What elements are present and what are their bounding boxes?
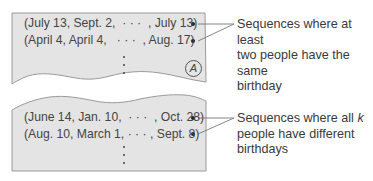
label-line: birthday — [237, 79, 373, 95]
variable-k: k — [357, 111, 363, 125]
circled-a-marker: A — [185, 60, 202, 77]
label-line: Sequences where all k — [237, 111, 364, 127]
label-different-birthdays: Sequences where all k people have differ… — [237, 111, 364, 158]
vertical-ellipsis — [123, 146, 127, 170]
sequence-row: (July 13, Sept. 2, · · · , July 13) — [24, 16, 197, 30]
label-line: people have different — [237, 127, 364, 143]
sequence-row: (Aug. 10, March 1, · · · , Sept. 8) — [24, 127, 199, 141]
label-line: birthdays — [237, 142, 364, 158]
label-line: Sequences where at least — [237, 17, 373, 48]
label-line: two people have the same — [237, 48, 373, 79]
sequence-row: (April 4, April 4, · · · , Aug. 17) — [24, 33, 195, 47]
label-text: Sequences where all — [237, 111, 357, 125]
label-same-birthday: Sequences where at least two people have… — [237, 17, 373, 95]
vertical-ellipsis — [123, 56, 127, 80]
sequence-row: (June 14, Jan. 10, · · · , Oct. 28) — [24, 110, 204, 124]
